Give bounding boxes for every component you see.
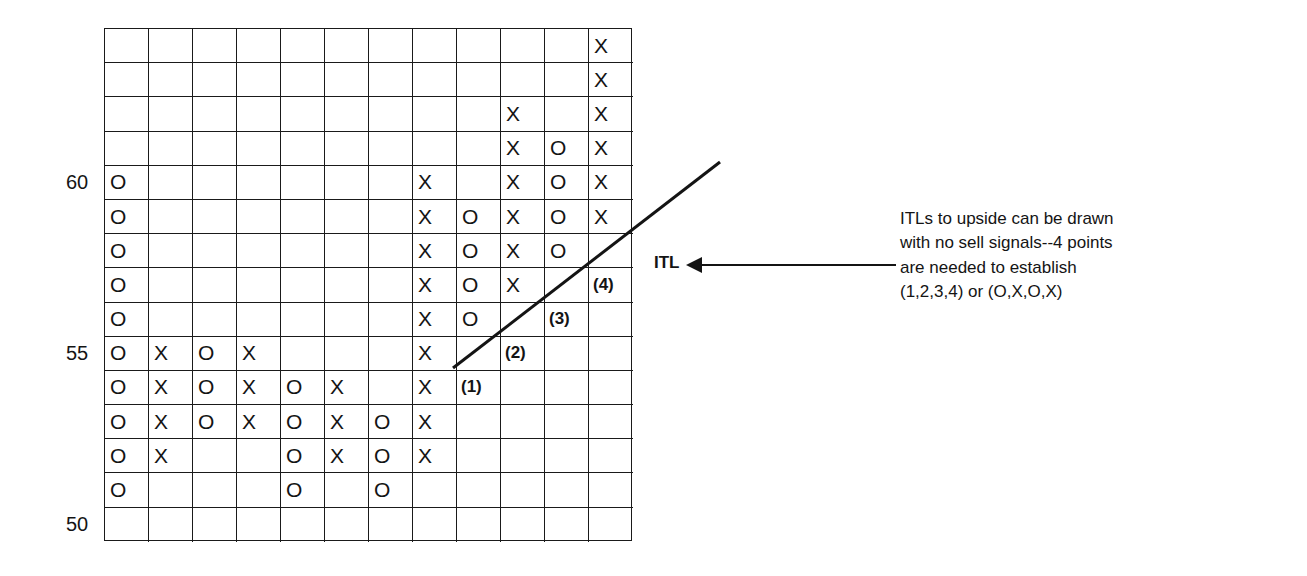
itl-trendline — [453, 162, 720, 368]
itl-label: ITL — [654, 253, 680, 273]
annotation-note: ITLs to upside can be drawn with no sell… — [900, 207, 1114, 304]
note-line: (1,2,3,4) or (O,X,O,X) — [900, 280, 1114, 304]
arrow-left-icon — [686, 257, 702, 273]
note-line: ITLs to upside can be drawn — [900, 207, 1114, 231]
note-line: with no sell signals--4 points — [900, 231, 1114, 255]
note-line: are needed to establish — [900, 256, 1114, 280]
